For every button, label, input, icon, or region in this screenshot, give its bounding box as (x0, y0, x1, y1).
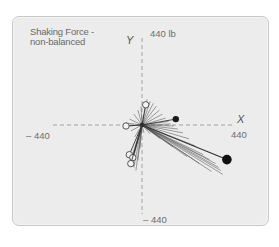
x-axis-max-label: 440 (231, 129, 247, 140)
y-axis-name: Y (126, 34, 133, 46)
force-vectors (126, 100, 223, 175)
x-axis-min-label: – 440 (26, 130, 50, 141)
open-circle-marker (143, 102, 149, 108)
x-axis-name: X (237, 113, 244, 125)
filled-small-marker (173, 116, 179, 122)
force-markers (123, 102, 232, 167)
open-circle-marker (123, 123, 129, 129)
y-axis-max-label: 440 lb (150, 28, 176, 39)
y-axis-min-label: – 440 (143, 214, 167, 225)
filled-large-marker (222, 155, 232, 165)
open-circle-marker (128, 160, 134, 166)
force-vector (142, 125, 223, 174)
